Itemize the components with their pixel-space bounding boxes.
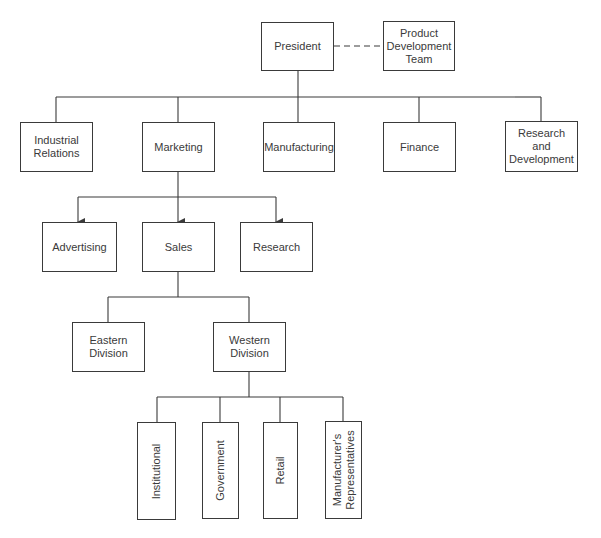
node-institutional-label: Institutional — [150, 443, 163, 499]
node-manufacturers-representatives: Manufacturer's Representatives — [325, 421, 362, 519]
node-finance: Finance — [383, 122, 456, 172]
node-eastern-division: Eastern Division — [72, 322, 145, 372]
node-advertising: Advertising — [42, 222, 117, 272]
node-industrial-relations: Industrial Relations — [20, 122, 93, 172]
node-president: President — [261, 22, 334, 71]
node-manufacturers-representatives-label: Manufacturer's Representatives — [331, 430, 357, 510]
node-retail: Retail — [263, 422, 298, 519]
node-product-development-team: Product Development Team — [383, 21, 455, 71]
node-manufacturing: Manufacturing — [263, 122, 335, 172]
node-research: Research — [240, 222, 313, 272]
node-retail-label: Retail — [274, 456, 287, 484]
node-institutional: Institutional — [137, 422, 176, 520]
node-government-label: Government — [214, 440, 227, 501]
node-research-and-development: Research and Development — [505, 121, 578, 172]
node-sales: Sales — [142, 222, 215, 272]
node-marketing: Marketing — [142, 122, 215, 172]
node-government: Government — [202, 422, 239, 519]
node-western-division: Western Division — [213, 322, 286, 372]
